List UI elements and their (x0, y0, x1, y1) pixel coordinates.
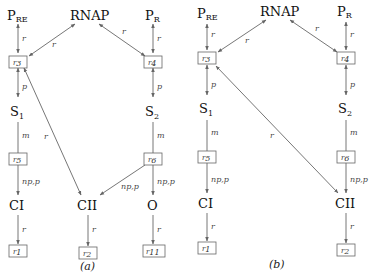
node-pr: PR (145, 8, 161, 24)
svg-text:r: r (92, 225, 97, 234)
svg-text:m: m (157, 131, 165, 140)
svg-text:r: r (122, 27, 127, 36)
svg-text:r: r (52, 40, 57, 49)
svg-text:r4: r4 (148, 59, 156, 68)
svg-text:np,p: np,p (157, 177, 175, 186)
node-ci: CI (198, 196, 213, 211)
node-pre: PRE (7, 8, 28, 24)
svg-text:m: m (22, 131, 30, 140)
edge-r3-cii (216, 66, 338, 193)
svg-text:r: r (22, 34, 27, 43)
node-s2: S2 (145, 104, 159, 121)
box-r2: r2 (337, 244, 355, 256)
svg-text:r: r (44, 132, 49, 141)
node-s1: S1 (10, 104, 24, 121)
node-rnap: RNAP (260, 4, 300, 19)
box-r4: r4 (337, 52, 355, 64)
svg-text:np,p: np,p (22, 177, 40, 186)
edge-rnap-r4 (290, 20, 337, 52)
svg-text:r: r (157, 225, 162, 234)
box-r11: r11 (143, 245, 165, 257)
node-cii: CII (335, 196, 355, 211)
node-ci: CI (9, 198, 24, 213)
svg-text:r5: r5 (13, 156, 21, 165)
svg-text:r: r (270, 131, 275, 140)
box-r3: r3 (198, 52, 216, 64)
node-s1: S1 (199, 101, 213, 118)
svg-text:m: m (350, 128, 358, 137)
caption-b: (b) (269, 258, 285, 271)
svg-text:r2: r2 (341, 247, 349, 256)
box-r1: r1 (198, 242, 216, 254)
svg-text:p: p (350, 80, 355, 89)
box-r2: r2 (79, 247, 97, 259)
svg-text:r3: r3 (202, 55, 210, 64)
box-r5: r5 (198, 151, 216, 163)
svg-text:p: p (22, 82, 27, 91)
svg-text:r: r (350, 30, 355, 39)
svg-text:r: r (22, 225, 27, 234)
svg-text:r2: r2 (83, 250, 91, 259)
node-o: O (147, 198, 158, 213)
svg-text:r: r (157, 34, 162, 43)
svg-text:r6: r6 (341, 154, 349, 163)
svg-text:r3: r3 (13, 59, 21, 68)
node-pr: PR (337, 4, 353, 20)
svg-text:p: p (211, 80, 216, 89)
svg-text:r: r (211, 222, 216, 231)
node-cii: CII (77, 198, 97, 213)
diagram-a: PRE RNAP PR S1 S2 CI CII O r3 r4 r5 r6 r… (7, 8, 175, 273)
svg-text:m: m (211, 128, 219, 137)
edge-rnap-r3 (218, 20, 266, 52)
box-r4: r4 (144, 56, 162, 68)
svg-text:r1: r1 (202, 245, 210, 254)
svg-text:r: r (211, 30, 216, 39)
svg-text:r11: r11 (146, 248, 160, 257)
svg-text:np,p: np,p (121, 182, 139, 191)
svg-text:r5: r5 (202, 154, 210, 163)
svg-text:p: p (157, 82, 162, 91)
caption-a: (a) (80, 260, 95, 273)
svg-text:r1: r1 (13, 248, 21, 257)
box-r5: r5 (9, 153, 27, 165)
svg-text:r: r (350, 222, 355, 231)
node-rnap: RNAP (70, 8, 110, 23)
box-r3: r3 (9, 56, 27, 68)
svg-text:r: r (245, 36, 250, 45)
box-r6: r6 (337, 151, 355, 163)
svg-text:np,p: np,p (211, 175, 229, 184)
svg-text:r: r (315, 24, 320, 33)
box-r6: r6 (144, 153, 162, 165)
svg-text:r4: r4 (341, 55, 349, 64)
node-pre: PRE (197, 6, 218, 22)
svg-text:np,p: np,p (350, 175, 368, 184)
svg-text:r6: r6 (148, 156, 156, 165)
edge-r3-cii (24, 68, 81, 195)
diagram-b: PRE RNAP PR S1 S2 CI CII r3 r4 r5 r6 r1 … (197, 4, 368, 271)
box-r1: r1 (9, 245, 27, 257)
node-s2: S2 (338, 101, 352, 118)
